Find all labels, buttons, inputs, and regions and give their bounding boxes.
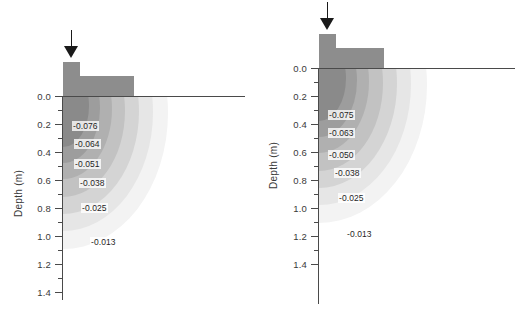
tick-major bbox=[311, 236, 318, 237]
tick-minor bbox=[58, 278, 62, 279]
contour-value-label: -0.025 bbox=[338, 193, 365, 203]
y-tick-label: 0.2 bbox=[278, 91, 307, 102]
contour-value-label: -0.051 bbox=[74, 159, 101, 169]
tick-major bbox=[311, 96, 318, 97]
tick-major bbox=[55, 96, 62, 97]
tick-minor bbox=[314, 166, 318, 167]
tick-minor bbox=[58, 166, 62, 167]
tick-minor bbox=[314, 110, 318, 111]
tick-minor bbox=[58, 110, 62, 111]
tick-major bbox=[311, 180, 318, 181]
tick-minor bbox=[58, 138, 62, 139]
tick-major bbox=[311, 68, 318, 69]
y-tick-label: 1.2 bbox=[278, 231, 307, 242]
depth-axis-line-right bbox=[318, 68, 319, 304]
y-tick-label: 1.4 bbox=[278, 259, 307, 270]
tick-major bbox=[55, 292, 62, 293]
y-tick-label: 0.8 bbox=[22, 203, 51, 214]
tick-minor bbox=[314, 82, 318, 83]
contour-value-label: -0.063 bbox=[328, 128, 355, 138]
contour-value-label: -0.050 bbox=[328, 150, 355, 160]
contour-panel-left: 0.0 0.2 0.4 0.6 0.8 1.0 1.2 1.4 Depth (m… bbox=[0, 0, 260, 320]
footing-base-left bbox=[63, 76, 134, 96]
tick-major bbox=[55, 236, 62, 237]
tick-minor bbox=[314, 222, 318, 223]
contour-value-label: -0.064 bbox=[74, 139, 101, 149]
tick-minor bbox=[314, 194, 318, 195]
contour-value-label: -0.038 bbox=[79, 178, 106, 188]
tick-major bbox=[311, 152, 318, 153]
contour-value-label: -0.013 bbox=[346, 229, 373, 239]
contour-value-label: -0.075 bbox=[328, 110, 355, 120]
y-tick-label: 0.6 bbox=[278, 147, 307, 158]
y-tick-label: 0.4 bbox=[278, 119, 307, 130]
y-axis-title-left: Depth (m) bbox=[13, 159, 24, 229]
load-arrow-head-right bbox=[320, 18, 334, 30]
y-tick-label: 1.0 bbox=[278, 203, 307, 214]
y-tick-label: 0.0 bbox=[22, 91, 51, 102]
tick-minor bbox=[314, 138, 318, 139]
tick-major bbox=[55, 152, 62, 153]
tick-major bbox=[311, 208, 318, 209]
y-tick-label: 0.2 bbox=[22, 119, 51, 130]
tick-minor bbox=[58, 194, 62, 195]
ground-surface-line-right bbox=[319, 68, 515, 69]
footing-base-right bbox=[319, 48, 384, 68]
y-tick-label: 1.0 bbox=[22, 231, 51, 242]
tick-major bbox=[311, 264, 318, 265]
y-tick-label: 1.2 bbox=[22, 259, 51, 270]
tick-major bbox=[55, 180, 62, 181]
tick-minor bbox=[58, 250, 62, 251]
y-axis-title-right: Depth (m) bbox=[268, 131, 279, 201]
contour-value-label: -0.013 bbox=[90, 237, 117, 247]
ground-surface-line-left bbox=[63, 96, 245, 97]
y-tick-label: 0.6 bbox=[22, 175, 51, 186]
footing-stem-right bbox=[319, 34, 336, 50]
y-tick-label: 1.4 bbox=[22, 287, 51, 298]
y-tick-label: 0.4 bbox=[22, 147, 51, 158]
footing-stem-left bbox=[63, 62, 80, 78]
contour-panel-right: 0.0 0.2 0.4 0.6 0.8 1.0 1.2 1.4 Depth (m… bbox=[260, 0, 520, 320]
contour-value-label: -0.025 bbox=[81, 203, 108, 213]
tick-major bbox=[55, 124, 62, 125]
load-arrow-head-left bbox=[64, 46, 78, 58]
tick-major bbox=[311, 124, 318, 125]
depth-axis-line-left bbox=[62, 96, 63, 300]
contour-value-label: -0.038 bbox=[334, 168, 361, 178]
tick-minor bbox=[314, 250, 318, 251]
tick-minor bbox=[58, 222, 62, 223]
y-tick-label: 0.8 bbox=[278, 175, 307, 186]
y-tick-label: 0.0 bbox=[278, 63, 307, 74]
contour-value-label: -0.076 bbox=[72, 121, 99, 131]
tick-major bbox=[55, 208, 62, 209]
tick-major bbox=[55, 264, 62, 265]
